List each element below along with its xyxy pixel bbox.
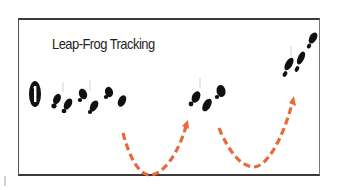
- footprints-end-group-icon: [282, 31, 319, 78]
- diagram-artwork: [0, 0, 338, 190]
- leap-arrow-2-icon: [219, 96, 296, 167]
- motion-trace-marks-icon: [63, 46, 291, 92]
- footprints-middle-group-icon: [189, 84, 227, 113]
- leap-arrow-1-icon: [123, 120, 189, 175]
- step-one-badge-icon: [29, 81, 41, 107]
- edge-mark: [4, 176, 6, 186]
